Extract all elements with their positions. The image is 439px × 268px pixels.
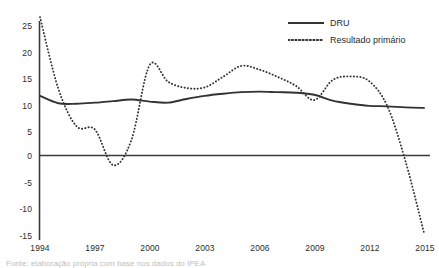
y-tick-label: 15 — [6, 74, 32, 84]
x-tick-label: 2000 — [133, 243, 167, 253]
legend-swatch-solid-icon — [288, 18, 324, 28]
y-tick-label: -5 — [6, 178, 32, 188]
x-tick-label: 1997 — [78, 243, 112, 253]
source-caption: Fonte: elaboração própria com base nos d… — [6, 259, 205, 268]
x-tick-label: 2015 — [408, 243, 439, 253]
y-tick-label: -10 — [6, 204, 32, 214]
legend-label-dru: DRU — [330, 18, 350, 28]
legend-item-resultado-primario: Resultado primário — [288, 33, 438, 47]
x-tick-label: 2006 — [243, 243, 277, 253]
chart-figure: 25 20 15 10 5 0 -5 -10 -15 1994 1997 200… — [0, 0, 439, 268]
series-line-dru — [40, 92, 424, 108]
x-tick-label: 2003 — [188, 243, 222, 253]
y-tick-label: 25 — [6, 21, 32, 31]
chart-legend: DRU Resultado primário — [288, 16, 438, 50]
x-tick-label: 2012 — [353, 243, 387, 253]
y-tick-label: 0 — [6, 151, 32, 161]
x-tick-label: 2009 — [298, 243, 332, 253]
y-tick-label: 5 — [6, 127, 32, 137]
y-tick-label: 20 — [6, 48, 32, 58]
x-tick-label: 1994 — [23, 243, 57, 253]
y-tick-label: -15 — [6, 231, 32, 241]
legend-swatch-dotted-icon — [288, 35, 324, 45]
y-tick-label: 10 — [6, 101, 32, 111]
legend-item-dru: DRU — [288, 16, 438, 30]
legend-label-resultado-primario: Resultado primário — [330, 35, 406, 45]
